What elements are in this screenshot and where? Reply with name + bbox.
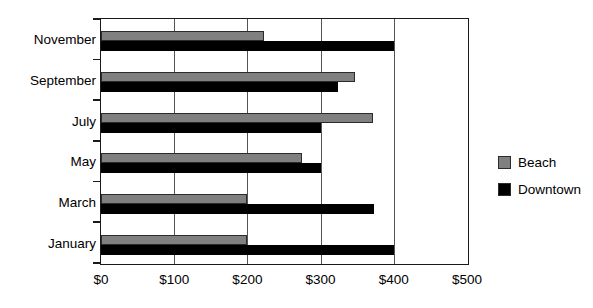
bar-beach-march xyxy=(101,194,247,204)
y-axis-label-november: November xyxy=(34,33,96,47)
bar-downtown-january xyxy=(101,245,394,255)
bar-beach-july xyxy=(101,113,373,123)
legend-swatch-downtown-icon xyxy=(498,183,511,196)
y-axis-tick xyxy=(93,99,100,101)
y-axis-tick xyxy=(93,140,100,142)
chart-legend: BeachDowntown xyxy=(498,155,581,209)
bar-chart: JanuaryMarchMayJulySeptemberNovember $0$… xyxy=(0,0,593,308)
legend-item-beach[interactable]: Beach xyxy=(498,155,581,170)
y-axis-tick xyxy=(93,262,100,264)
bar-group-march xyxy=(101,194,468,214)
bar-downtown-november xyxy=(101,41,394,51)
y-axis-tick xyxy=(93,18,100,20)
bar-group-november xyxy=(101,31,468,51)
legend-swatch-beach-icon xyxy=(498,156,511,169)
y-axis-tick xyxy=(93,181,100,183)
x-axis-label-usd-300: $300 xyxy=(306,272,336,287)
plot-area xyxy=(100,18,469,265)
bar-beach-may xyxy=(101,153,302,163)
x-axis-label-usd-0: $0 xyxy=(93,272,108,287)
x-axis-label-usd-400: $400 xyxy=(379,272,409,287)
y-axis-tick xyxy=(93,59,100,61)
x-axis-label-usd-500: $500 xyxy=(452,272,482,287)
bar-group-july xyxy=(101,113,468,133)
y-axis-label-may: May xyxy=(70,155,96,169)
bar-beach-september xyxy=(101,72,355,82)
bar-downtown-july xyxy=(101,123,321,133)
gridline xyxy=(174,19,175,264)
x-axis-label-usd-200: $200 xyxy=(232,272,262,287)
gridline xyxy=(247,19,248,264)
bar-downtown-march xyxy=(101,204,374,214)
y-axis-label-march: March xyxy=(58,196,96,210)
y-axis-label-january: January xyxy=(48,237,96,251)
gridline xyxy=(394,19,395,264)
bar-downtown-september xyxy=(101,82,338,92)
bar-beach-january xyxy=(101,235,247,245)
x-axis-label-usd-100: $100 xyxy=(159,272,189,287)
bar-downtown-may xyxy=(101,163,321,173)
bar-beach-november xyxy=(101,31,264,41)
legend-item-downtown[interactable]: Downtown xyxy=(498,182,581,197)
legend-label-beach: Beach xyxy=(518,155,556,170)
y-axis-label-july: July xyxy=(72,115,96,129)
bar-group-january xyxy=(101,235,468,255)
y-axis-tick xyxy=(93,221,100,223)
bar-group-september xyxy=(101,72,468,92)
bar-group-may xyxy=(101,153,468,173)
gridline xyxy=(321,19,322,264)
legend-label-downtown: Downtown xyxy=(518,182,581,197)
y-axis-label-september: September xyxy=(30,74,96,88)
